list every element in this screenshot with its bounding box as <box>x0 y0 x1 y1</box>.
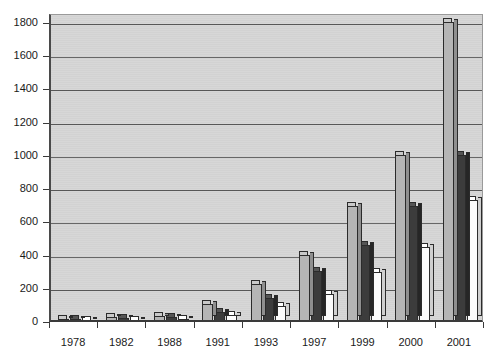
bar-side-face <box>310 252 314 316</box>
plot-area <box>49 14 483 322</box>
x-axis-tick <box>435 322 436 328</box>
bar-top-face <box>202 300 211 304</box>
bar-side-face <box>286 303 290 316</box>
bar-side-face <box>93 317 97 319</box>
bar <box>70 319 81 321</box>
bar-side-face <box>358 203 362 316</box>
bar-side-face <box>237 312 241 316</box>
bar-top-face <box>395 151 404 155</box>
bar <box>154 316 165 321</box>
bar <box>58 319 69 321</box>
bar-side-face <box>225 309 229 316</box>
y-axis-tick-label: 400 <box>0 249 38 261</box>
x-axis-tick <box>49 322 50 328</box>
y-axis-tick-label: 1800 <box>0 16 38 28</box>
x-axis-tick <box>242 322 243 328</box>
bar-side-face <box>165 313 169 316</box>
bar-side-face <box>334 291 338 316</box>
y-axis-tick-label: 1000 <box>0 149 38 161</box>
bar <box>226 315 237 321</box>
y-axis-tick-label: 1200 <box>0 116 38 128</box>
gridline-1800 <box>51 24 482 25</box>
y-axis-tick-label: 200 <box>0 282 38 294</box>
y-axis-tick-label: 600 <box>0 215 38 227</box>
bar-top-face <box>154 312 163 316</box>
bar-side-face <box>117 314 121 316</box>
y-axis-tick-label: 1600 <box>0 49 38 61</box>
gridline-1600 <box>51 57 482 58</box>
bar <box>251 284 262 321</box>
y-axis-tick-label: 800 <box>0 182 38 194</box>
bar-top-face <box>106 313 115 317</box>
bar-side-face <box>129 315 133 317</box>
bar <box>443 22 454 321</box>
bar-side-face <box>418 203 422 316</box>
bar <box>347 206 358 321</box>
bar-top-face <box>251 280 260 284</box>
bar <box>106 317 117 321</box>
bar <box>82 320 93 322</box>
bar-side-face <box>370 242 374 316</box>
bar <box>118 318 129 321</box>
bar-side-face <box>262 281 266 316</box>
x-axis-tick <box>194 322 195 328</box>
bar-side-face <box>141 317 145 319</box>
x-axis-tick <box>387 322 388 328</box>
x-axis-tick-label: 2001 <box>429 336 489 348</box>
bar <box>202 304 213 321</box>
bar-side-face <box>69 316 73 318</box>
bar-side-face <box>274 295 278 316</box>
bar <box>130 320 141 322</box>
bar-side-face <box>406 152 410 316</box>
x-axis-tick <box>97 322 98 328</box>
x-axis-tick <box>483 322 484 328</box>
bar-side-face <box>478 197 482 316</box>
bar <box>395 155 406 321</box>
bar <box>178 319 189 321</box>
bar-side-face <box>466 152 470 316</box>
bar-top-face <box>347 202 356 206</box>
bar-top-face <box>58 315 67 319</box>
bar-side-face <box>430 244 434 316</box>
gridline-800 <box>51 190 482 191</box>
bar-side-face <box>81 316 85 318</box>
bar-top-face <box>443 18 452 22</box>
y-axis-tick-label: 0 <box>0 315 38 327</box>
bar-side-face <box>177 314 181 316</box>
bar-top-face <box>299 251 308 255</box>
bar-side-face <box>322 268 326 316</box>
bar <box>299 255 310 321</box>
bar-chart: 020040060080010001200140016001800 197819… <box>0 0 494 361</box>
bar-side-face <box>189 316 193 318</box>
gridline-1400 <box>51 90 482 91</box>
bar-side-face <box>382 269 386 316</box>
x-axis-tick <box>338 322 339 328</box>
bar <box>166 317 177 321</box>
x-axis-tick <box>145 322 146 328</box>
bar-side-face <box>454 19 458 316</box>
x-axis-tick <box>290 322 291 328</box>
y-axis-tick-label: 1400 <box>0 82 38 94</box>
gridline-1200 <box>51 124 482 125</box>
gridline-1000 <box>51 157 482 158</box>
bar-side-face <box>213 301 217 316</box>
